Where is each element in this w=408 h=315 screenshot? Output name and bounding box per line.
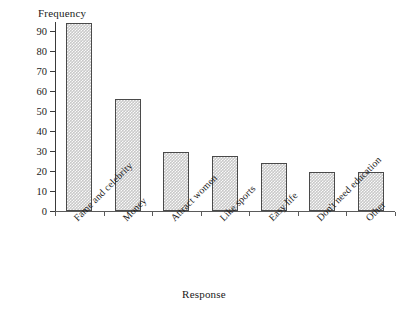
y-axis-tick: 60 bbox=[50, 91, 55, 92]
y-axis-tick: 70 bbox=[50, 71, 55, 72]
y-axis-tick: 20 bbox=[50, 171, 55, 172]
x-axis-tick bbox=[395, 212, 396, 216]
y-axis-tick-label: 30 bbox=[37, 146, 48, 157]
y-axis-tick: 80 bbox=[50, 51, 55, 52]
y-axis-tick: 90 bbox=[50, 31, 55, 32]
y-axis-tick-label: 20 bbox=[37, 166, 48, 177]
x-axis-tick bbox=[152, 212, 153, 216]
bar bbox=[115, 99, 141, 211]
x-axis-tick bbox=[346, 212, 347, 216]
y-axis-tick: 10 bbox=[50, 191, 55, 192]
y-axis-tick-label: 50 bbox=[37, 106, 48, 117]
y-axis-title: Frequency bbox=[38, 7, 86, 19]
y-axis-tick-label: 10 bbox=[37, 186, 48, 197]
y-axis-tick-label: 60 bbox=[37, 86, 48, 97]
y-axis-tick-label: 0 bbox=[42, 206, 47, 217]
y-axis-tick: 30 bbox=[50, 151, 55, 152]
x-axis-tick bbox=[55, 212, 56, 216]
y-axis-line bbox=[55, 22, 56, 212]
x-axis-tick bbox=[104, 212, 105, 216]
y-axis-tick-label: 70 bbox=[37, 66, 48, 77]
y-axis-tick-label: 40 bbox=[37, 126, 48, 137]
y-axis-tick: 40 bbox=[50, 131, 55, 132]
x-axis-title: Response bbox=[0, 288, 408, 300]
x-axis-tick bbox=[249, 212, 250, 216]
bar-chart: Frequency 0102030405060708090 Fame and c… bbox=[0, 0, 408, 315]
x-axis-tick bbox=[201, 212, 202, 216]
x-axis-tick bbox=[298, 212, 299, 216]
y-axis-tick: 50 bbox=[50, 111, 55, 112]
y-axis-tick-label: 80 bbox=[37, 46, 48, 57]
y-axis-tick-label: 90 bbox=[37, 26, 48, 37]
bar bbox=[66, 23, 92, 211]
